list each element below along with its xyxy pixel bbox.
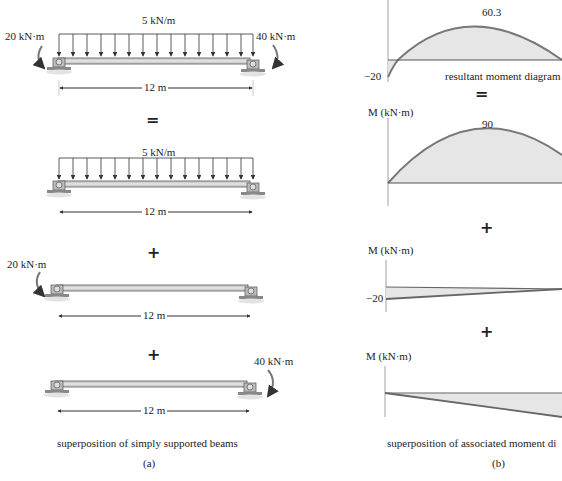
- span-label: 12 m: [141, 404, 167, 416]
- load-label: 5 kN/m: [142, 14, 175, 26]
- peak-label: 60.3: [482, 6, 501, 18]
- span-label: 12 m: [141, 309, 167, 321]
- plus-operator: +: [480, 322, 493, 341]
- plus-operator: +: [147, 345, 160, 364]
- axis-label: M (kN·m): [368, 244, 414, 256]
- right-moment-label: 40 kN·m: [256, 30, 295, 42]
- span-label: 12 m: [142, 205, 168, 217]
- label-b: (b): [492, 457, 505, 469]
- label-a: (a): [143, 457, 155, 469]
- axis-label: M (kN·m): [366, 350, 412, 362]
- left-moment-label: 20 kN·m: [5, 30, 44, 42]
- plus-operator: +: [480, 218, 493, 237]
- load-label: 5 kN/m: [142, 146, 175, 158]
- min-label: −20: [366, 292, 383, 304]
- span-label: 12 m: [142, 81, 168, 93]
- min-label: −20: [364, 70, 381, 82]
- diagram-title: resultant moment diagram: [445, 70, 560, 82]
- axis-label: M (kN·m): [368, 106, 414, 118]
- plus-operator: +: [147, 243, 160, 262]
- equals-operator: =: [146, 110, 159, 129]
- caption-a: superposition of simply supported beams: [57, 437, 238, 449]
- peak-label: 90: [482, 118, 493, 130]
- equals-operator: =: [475, 84, 488, 103]
- left-moment-label: 20 kN·m: [7, 258, 46, 270]
- caption-b: superposition of associated moment di: [387, 437, 556, 449]
- right-moment-label: 40 kN·m: [254, 355, 293, 367]
